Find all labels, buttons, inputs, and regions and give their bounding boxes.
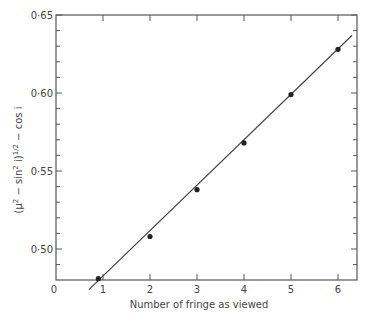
x-tick-label: 0 [51, 284, 57, 295]
fit-line [89, 35, 352, 289]
x-tick-label: 4 [241, 284, 247, 295]
x-tick-label: 2 [147, 284, 153, 295]
y-axis-label: (μ2 − sin2 i)1/2 − cos i [12, 107, 24, 214]
y-tick-label: 0·65 [31, 10, 53, 21]
plot-border [56, 15, 357, 280]
x-tick-label: 3 [194, 284, 200, 295]
y-tick-label: 0·60 [31, 88, 53, 99]
data-point [96, 276, 101, 281]
data-point [288, 92, 293, 97]
axis-ticks: 01234560·500·550·600·65 [31, 10, 357, 295]
x-tick-label: 6 [335, 284, 341, 295]
y-tick-label: 0·50 [31, 244, 53, 255]
data-point [335, 47, 340, 52]
data-point [241, 140, 246, 145]
x-tick-label: 5 [288, 284, 294, 295]
x-tick-label: 1 [100, 284, 106, 295]
data-point [147, 234, 152, 239]
plot-frame [56, 15, 357, 280]
chart: 01234560·500·550·600·65 Number of fringe… [0, 0, 367, 315]
data-point [194, 187, 199, 192]
y-tick-label: 0·55 [31, 166, 53, 177]
x-axis-label: Number of fringe as viewed [130, 299, 269, 310]
